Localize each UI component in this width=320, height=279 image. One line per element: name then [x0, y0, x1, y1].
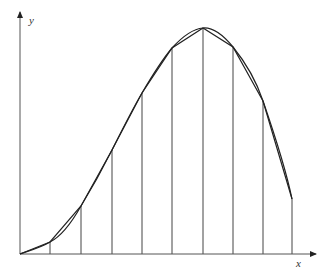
x-axis-label: x: [295, 257, 301, 269]
trapezoid-rule-diagram: y x: [0, 0, 320, 279]
partition-vertical-lines: [50, 28, 292, 254]
function-curve: [20, 28, 292, 254]
trapezoid-polyline: [20, 28, 292, 254]
y-axis-label: y: [28, 14, 34, 26]
